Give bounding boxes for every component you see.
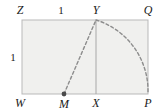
measure-label-left: 1 <box>10 52 16 63</box>
vertex-label-x: X <box>92 97 99 109</box>
geometry-figure: Z Y Q W M X P 1 1 <box>0 0 161 111</box>
vertex-label-q: Q <box>144 4 153 16</box>
vertex-label-w: W <box>15 97 25 109</box>
figure-canvas <box>0 0 161 111</box>
vertex-label-z: Z <box>17 4 24 16</box>
vertex-label-p: P <box>144 97 151 109</box>
point-m-marker <box>62 92 67 97</box>
measure-label-top: 1 <box>58 5 64 16</box>
vertex-label-m: M <box>59 98 69 110</box>
vertex-label-y: Y <box>93 4 100 16</box>
rectangle-WZQP <box>22 20 148 94</box>
